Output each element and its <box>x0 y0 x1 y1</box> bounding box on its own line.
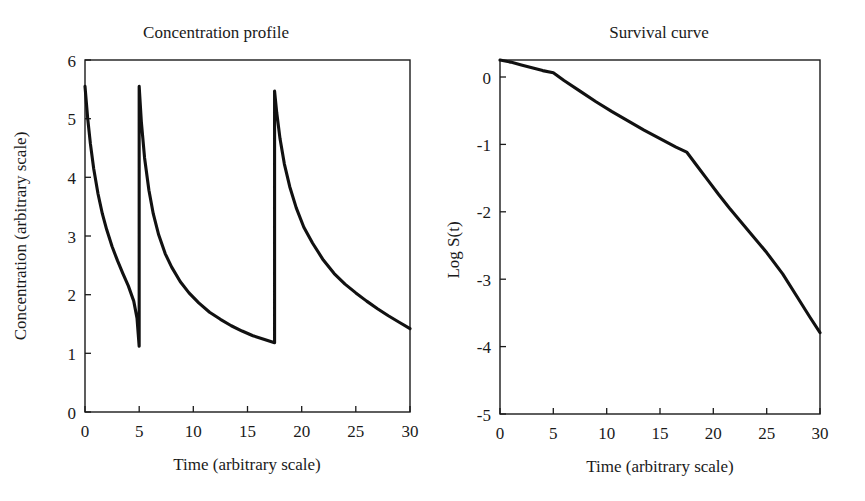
x-tick-label: 5 <box>135 422 144 441</box>
y-tick-label: 4 <box>68 169 77 188</box>
figure-container: Concentration profile 0 1 2 3 4 5 6 <box>0 0 865 501</box>
y-tick-label: -5 <box>477 406 491 425</box>
concentration-profile-chart: Concentration profile 0 1 2 3 4 5 6 <box>0 0 432 501</box>
x-tick-label: 10 <box>185 422 202 441</box>
x-tick-label: 25 <box>347 422 364 441</box>
x-axis-label-left: Time (arbitrary scale) <box>173 455 321 474</box>
x-axis-tick-labels-right: 0 5 10 15 20 25 30 <box>496 424 829 443</box>
survival-curve-chart: Survival curve -5 -4 -3 -2 -1 0 <box>433 0 865 501</box>
plot-frame-left <box>85 60 410 412</box>
y-tick-label: 5 <box>68 110 77 129</box>
panel-concentration-profile: Concentration profile 0 1 2 3 4 5 6 <box>0 0 432 501</box>
y-tick-label: 6 <box>68 52 77 71</box>
x-tick-label: 0 <box>496 424 505 443</box>
panel-survival-curve: Survival curve -5 -4 -3 -2 -1 0 <box>433 0 865 501</box>
y-tick-label: 1 <box>68 345 77 364</box>
y-axis-label-right: Log S(t) <box>444 221 463 278</box>
y-axis-tick-labels-left: 0 1 2 3 4 5 6 <box>68 52 77 423</box>
x-tick-label: 10 <box>598 424 615 443</box>
x-tick-label: 30 <box>402 422 419 441</box>
x-tick-label: 20 <box>705 424 722 443</box>
y-tick-label: -3 <box>477 271 491 290</box>
y-tick-label: 3 <box>68 228 77 247</box>
x-axis-ticks-left <box>85 406 410 412</box>
y-axis-ticks-right <box>500 77 506 414</box>
concentration-curve <box>85 86 410 346</box>
x-tick-label: 0 <box>81 422 90 441</box>
y-tick-label: -4 <box>477 338 492 357</box>
x-tick-label: 30 <box>812 424 829 443</box>
y-axis-tick-labels-right: -5 -4 -3 -2 -1 0 <box>477 69 492 425</box>
x-tick-label: 25 <box>758 424 775 443</box>
x-axis-tick-labels-left: 0 5 10 15 20 25 30 <box>81 422 419 441</box>
y-tick-label: 0 <box>483 69 492 88</box>
y-tick-label: -2 <box>477 203 491 222</box>
x-tick-label: 15 <box>239 422 256 441</box>
survival-curve <box>500 60 820 333</box>
x-tick-label: 5 <box>549 424 558 443</box>
y-tick-label: 2 <box>68 286 77 305</box>
x-tick-label: 15 <box>652 424 669 443</box>
y-axis-label-left: Concentration (arbitrary scale) <box>11 132 30 341</box>
chart-title-left: Concentration profile <box>143 23 289 42</box>
y-tick-label: -1 <box>477 136 491 155</box>
plot-frame-right <box>500 60 820 414</box>
x-axis-label-right: Time (arbitrary scale) <box>586 457 734 476</box>
y-tick-label: 0 <box>68 404 77 423</box>
chart-title-right: Survival curve <box>609 23 709 42</box>
x-axis-ticks-right <box>500 408 820 414</box>
x-tick-label: 20 <box>293 422 310 441</box>
